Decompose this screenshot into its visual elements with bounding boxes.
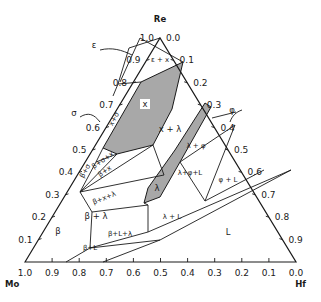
right-axis-tick-label: 0.9	[288, 235, 303, 245]
phase-label-beta: β	[55, 226, 60, 236]
phase-boundary-line	[80, 192, 92, 212]
phase-label-epsilon: ε	[92, 40, 97, 50]
right-axis-tick-label: 0.1	[180, 55, 194, 65]
phase-label-phi-L: φ + L	[219, 176, 238, 184]
phase-label-sigma: σ	[71, 108, 77, 118]
right-axis-tick-label: 0.2	[193, 78, 207, 88]
phase-label-beta-L-lambda: β+L+λ	[108, 230, 132, 238]
left-axis-tick-label: 0.2	[32, 212, 46, 222]
bottom-axis-tick-label: 1.0	[18, 268, 33, 278]
bottom-axis-tick-label: 0.4	[180, 268, 195, 278]
vertex-label-re: Re	[154, 14, 167, 24]
left-axis-tick-label: 0.7	[99, 100, 113, 110]
ternary-triangle	[25, 38, 296, 262]
phase-label-x: x	[142, 99, 147, 109]
right-axis-tick-label: 0.6	[248, 167, 263, 177]
phase-label-beta-lambda: β + λ	[85, 211, 108, 221]
phase-label-lambda-phi-L: λ+φ+L	[178, 169, 202, 177]
bottom-axis-tick-label: 0.5	[153, 268, 167, 278]
bottom-axis-tick-label: 0.0	[289, 268, 304, 278]
right-axis-tick-label: 0.7	[261, 190, 275, 200]
bottom-axis-tick-label: 0.1	[262, 268, 276, 278]
phase-label-lambda-L: λ + L	[163, 213, 181, 221]
bottom-axis-tick-label: 0.9	[45, 268, 60, 278]
phase-boundary-line	[144, 203, 148, 205]
phase-label-lambda: λ	[154, 183, 159, 193]
bottom-axis-tick-label: 0.6	[126, 268, 141, 278]
left-axis-tick-label: 0.1	[18, 235, 32, 245]
left-axis-tick-label: 0.5	[72, 145, 86, 155]
right-axis-tick-label: 0.0	[166, 33, 181, 43]
vertex-label-mo: Mo	[5, 279, 19, 289]
bottom-axis-tick-label: 0.7	[99, 268, 113, 278]
ternary-phase-diagram: 1.00.90.80.70.60.50.40.30.20.10.00.10.20…	[0, 0, 321, 302]
phase-boundary-line	[180, 162, 205, 201]
right-axis-tick-label: 0.3	[207, 100, 221, 110]
right-axis-tick-label: 0.4	[220, 123, 235, 133]
triangle-frame	[25, 38, 296, 262]
phase-label-beta-x-lambda: β+x+λ	[91, 190, 117, 207]
phase-label-beta-L: β+L	[83, 244, 97, 252]
axis-tick-labels: 1.00.90.80.70.60.50.40.30.20.10.00.10.20…	[18, 33, 304, 278]
left-axis-tick-label: 0.8	[113, 78, 128, 88]
phase-boundary-line	[153, 145, 164, 175]
sigma-arrow-icon	[80, 114, 100, 122]
phase-label-phi: φ	[229, 105, 235, 115]
left-axis-tick-label: 0.3	[45, 190, 59, 200]
phase-label-lambda-phi: λ + φ	[186, 142, 205, 150]
bottom-axis-tick-label: 0.3	[208, 268, 222, 278]
right-axis-tick-label: 0.5	[234, 145, 248, 155]
phase-label-L: L	[226, 227, 231, 237]
bottom-axis-tick-label: 0.8	[72, 268, 87, 278]
left-axis-tick-label: 0.9	[126, 55, 141, 65]
phase-label-x-lambda: x + λ	[159, 124, 182, 134]
phase-label-epsilon-x: ε + x	[151, 56, 169, 64]
bottom-axis-tick-label: 0.2	[235, 268, 249, 278]
left-axis-tick-label: 0.6	[86, 123, 101, 133]
right-axis-tick-label: 0.8	[275, 212, 290, 222]
vertex-label-hf: Hf	[295, 279, 306, 289]
left-axis-tick-label: 0.4	[59, 167, 74, 177]
left-axis-tick-label: 1.0	[140, 33, 155, 43]
